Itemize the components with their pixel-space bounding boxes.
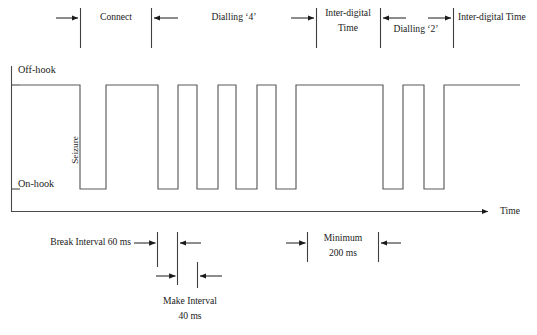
y-axis-label-on-hook: On-hook — [18, 178, 55, 189]
measurement-label-minimum-value: 200 ms — [329, 247, 357, 258]
x-axis-label-time: Time — [500, 205, 520, 216]
phase-label-connect: Connect — [100, 11, 132, 22]
figure-canvas: Connect Dialling ‘4’ Inter-digital Time … — [0, 0, 537, 335]
phase-label-inter-digital-time-2: Inter-digital Time — [458, 11, 526, 22]
measurement-label-break-interval: Break Interval 60 ms — [50, 236, 131, 247]
y-axis-label-off-hook: Off-hook — [18, 64, 57, 75]
timing-diagram: Connect Dialling ‘4’ Inter-digital Time … — [0, 0, 537, 335]
measurement-label-make-interval-value: 40 ms — [178, 310, 201, 321]
annotation-seizure: Seizure — [70, 136, 80, 164]
phase-label-group: Connect Dialling ‘4’ Inter-digital Time … — [100, 7, 526, 34]
phase-label-inter-digital-time-1-line2: Time — [338, 22, 358, 33]
loop-state-waveform — [20, 85, 520, 189]
measurement-label-minimum: Minimum — [324, 232, 363, 243]
phase-label-inter-digital-time-1: Inter-digital — [325, 7, 371, 18]
measurement-label-group: Break Interval 60 ms Make Interval 40 ms… — [50, 232, 362, 321]
phase-label-dialling-4: Dialling ‘4’ — [211, 11, 256, 22]
measurement-arrow-group — [134, 243, 401, 276]
measurement-label-make-interval: Make Interval — [163, 295, 217, 306]
phase-label-dialling-2: Dialling ‘2’ — [393, 23, 438, 34]
